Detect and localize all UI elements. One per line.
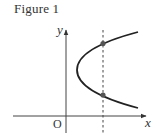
lower-intersection-point xyxy=(100,92,105,97)
parabola-curve xyxy=(77,32,138,108)
y-axis-label: y xyxy=(55,22,63,37)
x-axis-label: x xyxy=(144,115,151,130)
upper-intersection-point xyxy=(100,41,105,46)
origin-label: O xyxy=(53,117,62,131)
figure-diagram: y x O xyxy=(0,0,159,137)
